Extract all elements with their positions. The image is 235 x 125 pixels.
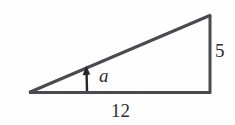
- triangle-hypotenuse-line: [29, 15, 211, 93]
- angle-label: a: [99, 66, 109, 85]
- triangle-figure: 5 12 a: [0, 0, 235, 125]
- side-length-label-horizontal: 12: [111, 101, 130, 120]
- side-length-label-vertical: 5: [215, 41, 225, 60]
